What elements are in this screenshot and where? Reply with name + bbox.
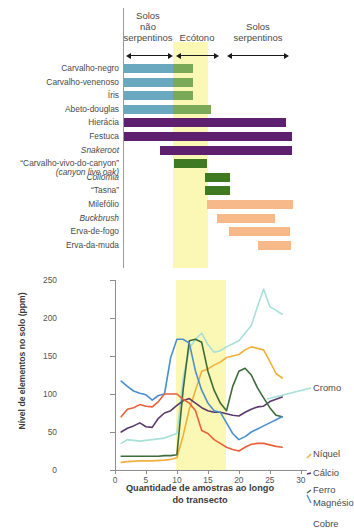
species-label: Íris — [9, 90, 119, 101]
species-row: “Carvalho-vivo-do-canyon”(canyon live oa… — [0, 158, 351, 170]
species-label: Erva-da-muda — [9, 240, 119, 251]
y-tick — [110, 356, 115, 357]
species-label: Snakeroot — [9, 145, 119, 156]
zone-label-nonserpentine: Solosnãoserpentinos — [118, 10, 178, 43]
species-range-bar — [124, 132, 292, 141]
species-label: “Tasna” — [9, 185, 119, 196]
x-tick — [115, 470, 116, 474]
species-range-bar — [217, 214, 275, 223]
zone-arrow-ecotone — [176, 51, 219, 60]
series-leader-line — [267, 388, 311, 399]
species-row: “Tasna” — [0, 185, 351, 197]
x-tick — [270, 470, 271, 474]
y-tick — [110, 280, 115, 281]
soil-elements-chart-panel: 050100150200250 051015202530 CromoNíquel… — [0, 268, 351, 516]
y-tick — [110, 318, 115, 319]
species-label: Buckbrush — [9, 213, 119, 224]
series-label: Cobre — [313, 518, 339, 529]
species-range-bar — [258, 241, 291, 250]
species-row: Milefólio — [0, 199, 351, 211]
species-range-bar — [173, 91, 193, 100]
species-row: Carvalho-negro — [0, 63, 351, 75]
zone-label-serpentine: Solosserpentinos — [222, 21, 294, 43]
species-row: Erva-da-muda — [0, 240, 351, 252]
species-row: Snakeroot — [0, 145, 351, 157]
species-row: Hierácia — [0, 117, 351, 129]
chart-x-axis — [115, 470, 307, 471]
x-tick — [177, 470, 178, 474]
y-tick — [110, 394, 115, 395]
series-leader-line — [307, 454, 311, 458]
species-range-bar — [173, 105, 211, 114]
y-tick — [110, 432, 115, 433]
zone-label-ecotone: Ecótono — [172, 32, 222, 43]
species-label: Festuca — [9, 131, 119, 142]
species-row: Íris — [0, 90, 351, 102]
series-label: Cromo — [313, 382, 341, 393]
x-tick — [208, 470, 209, 474]
species-range-bar — [124, 118, 286, 127]
species-row: Festuca — [0, 131, 351, 143]
zone-arrow-serpentine — [227, 51, 289, 60]
species-range-bar — [207, 200, 293, 209]
y-tick-label: 100 — [31, 389, 57, 399]
species-range-bar — [174, 159, 207, 168]
zone-arrow-nonserpentine — [126, 51, 173, 60]
ecotone-highlight-band-chart — [176, 280, 226, 470]
chart-x-axis-title: Quantidade de amostras ao longodo transe… — [65, 482, 335, 506]
species-range-bar — [173, 78, 193, 87]
species-range-bar — [124, 64, 173, 73]
species-label: Carvalho-negro — [9, 63, 119, 74]
species-label: Hierácia — [9, 117, 119, 128]
species-label: Abeto-douglas — [9, 104, 119, 115]
species-range-bar — [160, 146, 292, 155]
species-range-bar — [205, 186, 230, 195]
y-tick-label: 200 — [31, 313, 57, 323]
y-tick-label: 0 — [31, 465, 57, 475]
species-label: Collomia — [9, 172, 119, 183]
species-range-bar — [124, 91, 173, 100]
chart-y-axis-title: Nível de elementos no solo (ppm) — [17, 281, 27, 441]
species-label: Erva-de-fogo — [9, 226, 119, 237]
y-tick-label: 150 — [31, 351, 57, 361]
species-row: Buckbrush — [0, 213, 351, 225]
series-label: Cálcio — [313, 467, 339, 478]
species-row: Abeto-douglas — [0, 104, 351, 116]
y-tick-label: 250 — [31, 275, 57, 285]
species-row: Carvalho-venenoso — [0, 77, 351, 89]
species-range-bar — [205, 173, 230, 182]
series-leader-line — [307, 473, 311, 474]
chart-y-axis — [115, 280, 116, 470]
x-tick — [301, 470, 302, 474]
species-row: Collomia — [0, 172, 351, 184]
series-label: Níquel — [313, 448, 340, 459]
species-range-bar — [124, 78, 173, 87]
x-tick — [239, 470, 240, 474]
species-distribution-panel: Solosnãoserpentinos Ecótono Solosserpent… — [0, 0, 351, 268]
species-label: Carvalho-venenoso — [9, 77, 119, 88]
species-range-bar — [229, 227, 290, 236]
species-label: Milefólio — [9, 199, 119, 210]
species-range-bar — [173, 64, 193, 73]
species-row: Erva-de-fogo — [0, 226, 351, 238]
y-tick-label: 50 — [31, 427, 57, 437]
x-tick — [146, 470, 147, 474]
species-range-bar — [124, 105, 173, 114]
